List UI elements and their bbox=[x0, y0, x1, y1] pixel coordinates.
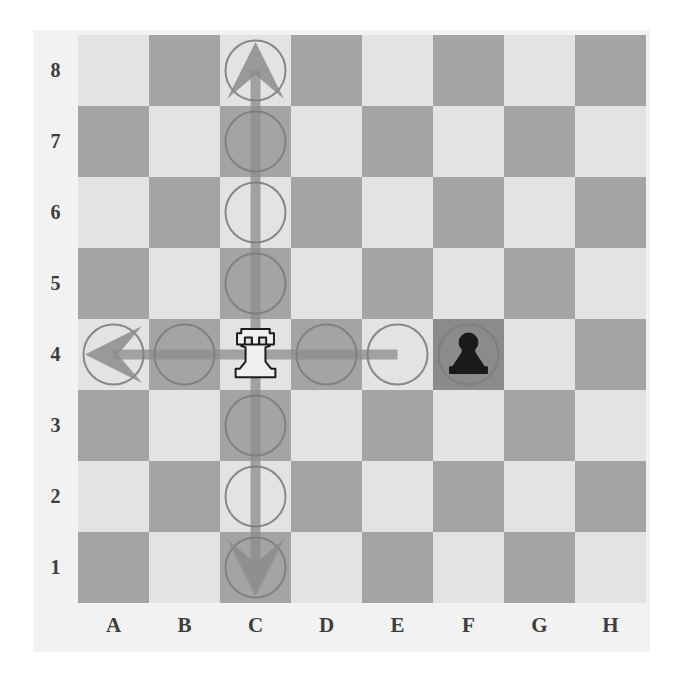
square-e1[interactable] bbox=[362, 532, 433, 603]
square-d1[interactable] bbox=[291, 532, 362, 603]
square-b3[interactable] bbox=[149, 390, 220, 461]
square-c8[interactable] bbox=[220, 35, 291, 106]
file-label-c: C bbox=[220, 603, 291, 648]
square-f3[interactable] bbox=[433, 390, 504, 461]
square-c5[interactable] bbox=[220, 248, 291, 319]
square-a1[interactable] bbox=[78, 532, 149, 603]
square-f5[interactable] bbox=[433, 248, 504, 319]
square-e7[interactable] bbox=[362, 106, 433, 177]
square-d6[interactable] bbox=[291, 177, 362, 248]
square-d7[interactable] bbox=[291, 106, 362, 177]
square-g8[interactable] bbox=[504, 35, 575, 106]
square-g6[interactable] bbox=[504, 177, 575, 248]
square-b8[interactable] bbox=[149, 35, 220, 106]
file-label-f: F bbox=[433, 603, 504, 648]
square-f4[interactable] bbox=[433, 319, 504, 390]
square-a4[interactable] bbox=[78, 319, 149, 390]
square-h2[interactable] bbox=[575, 461, 646, 532]
rank-label-1: 1 bbox=[33, 532, 78, 603]
square-b6[interactable] bbox=[149, 177, 220, 248]
square-g7[interactable] bbox=[504, 106, 575, 177]
square-e6[interactable] bbox=[362, 177, 433, 248]
file-label-e: E bbox=[362, 603, 433, 648]
square-a5[interactable] bbox=[78, 248, 149, 319]
square-a3[interactable] bbox=[78, 390, 149, 461]
square-g3[interactable] bbox=[504, 390, 575, 461]
square-c4[interactable] bbox=[220, 319, 291, 390]
square-c3[interactable] bbox=[220, 390, 291, 461]
square-b4[interactable] bbox=[149, 319, 220, 390]
square-d4[interactable] bbox=[291, 319, 362, 390]
file-label-row: A B C D E F G H bbox=[78, 603, 646, 648]
square-h3[interactable] bbox=[575, 390, 646, 461]
rank-label-5: 5 bbox=[33, 248, 78, 319]
square-g4[interactable] bbox=[504, 319, 575, 390]
square-h5[interactable] bbox=[575, 248, 646, 319]
square-e8[interactable] bbox=[362, 35, 433, 106]
square-g5[interactable] bbox=[504, 248, 575, 319]
square-d5[interactable] bbox=[291, 248, 362, 319]
file-label-d: D bbox=[291, 603, 362, 648]
square-a8[interactable] bbox=[78, 35, 149, 106]
square-a6[interactable] bbox=[78, 177, 149, 248]
square-a2[interactable] bbox=[78, 461, 149, 532]
square-d2[interactable] bbox=[291, 461, 362, 532]
square-b5[interactable] bbox=[149, 248, 220, 319]
rank-label-2: 2 bbox=[33, 461, 78, 532]
square-b7[interactable] bbox=[149, 106, 220, 177]
square-g1[interactable] bbox=[504, 532, 575, 603]
rank-label-6: 6 bbox=[33, 177, 78, 248]
square-c1[interactable] bbox=[220, 532, 291, 603]
square-h7[interactable] bbox=[575, 106, 646, 177]
square-h8[interactable] bbox=[575, 35, 646, 106]
square-e3[interactable] bbox=[362, 390, 433, 461]
square-e4[interactable] bbox=[362, 319, 433, 390]
rank-label-3: 3 bbox=[33, 390, 78, 461]
square-d3[interactable] bbox=[291, 390, 362, 461]
file-label-h: H bbox=[575, 603, 646, 648]
square-b1[interactable] bbox=[149, 532, 220, 603]
square-h6[interactable] bbox=[575, 177, 646, 248]
square-f8[interactable] bbox=[433, 35, 504, 106]
square-c6[interactable] bbox=[220, 177, 291, 248]
square-b2[interactable] bbox=[149, 461, 220, 532]
square-d8[interactable] bbox=[291, 35, 362, 106]
square-e2[interactable] bbox=[362, 461, 433, 532]
file-label-b: B bbox=[149, 603, 220, 648]
file-label-g: G bbox=[504, 603, 575, 648]
square-e5[interactable] bbox=[362, 248, 433, 319]
rank-label-7: 7 bbox=[33, 106, 78, 177]
rank-label-column: 8 7 6 5 4 3 2 1 bbox=[33, 35, 78, 603]
rank-label-4: 4 bbox=[33, 319, 78, 390]
square-c7[interactable] bbox=[220, 106, 291, 177]
square-f7[interactable] bbox=[433, 106, 504, 177]
square-a7[interactable] bbox=[78, 106, 149, 177]
square-f1[interactable] bbox=[433, 532, 504, 603]
square-h4[interactable] bbox=[575, 319, 646, 390]
square-g2[interactable] bbox=[504, 461, 575, 532]
square-f6[interactable] bbox=[433, 177, 504, 248]
rank-label-8: 8 bbox=[33, 35, 78, 106]
square-c2[interactable] bbox=[220, 461, 291, 532]
chess-diagram: 8 7 6 5 4 3 2 1 A B C D E F G H bbox=[33, 30, 650, 652]
chessboard-grid bbox=[78, 35, 646, 603]
square-f2[interactable] bbox=[433, 461, 504, 532]
square-h1[interactable] bbox=[575, 532, 646, 603]
file-label-a: A bbox=[78, 603, 149, 648]
